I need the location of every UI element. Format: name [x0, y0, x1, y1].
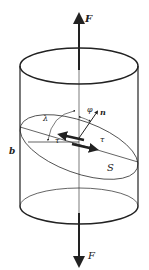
schmid-diagram: F F n φ b λ τ τ S [0, 0, 149, 270]
lambda-label: λ [42, 114, 48, 123]
normal-label: n [100, 107, 106, 117]
slip-direction-label: b [9, 146, 15, 156]
tau-label-right: τ [100, 135, 105, 144]
slip-plane-label: S [107, 162, 114, 173]
force-label-top: F [84, 13, 93, 24]
force-label-bottom: F [87, 250, 96, 261]
tau-arrow-right [72, 144, 94, 149]
tau-label-left: τ [55, 136, 60, 145]
phi-label: φ [87, 105, 93, 114]
